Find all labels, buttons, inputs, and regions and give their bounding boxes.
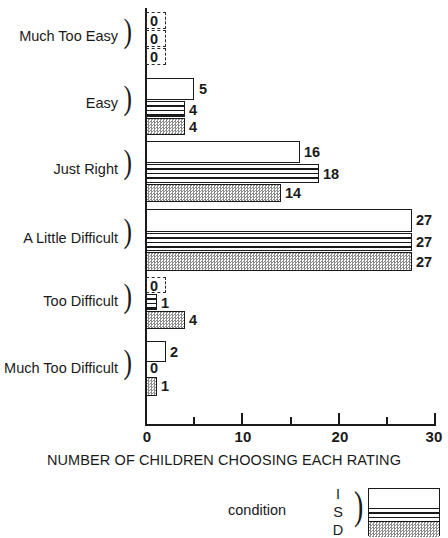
group-brace-icon: )	[123, 345, 131, 379]
bar-value-just-right-S: 18	[323, 166, 339, 182]
bar-group-much-too-easy: Much Too Easy ) 0 0 0	[0, 8, 448, 70]
legend-swatch-I[interactable]	[369, 489, 439, 508]
bar-a-little-difficult-D[interactable]	[146, 252, 412, 271]
legend-key-D: D	[331, 522, 345, 538]
bar-just-right-I[interactable]	[146, 141, 300, 163]
legend-title: condition	[228, 502, 286, 518]
bar-value-too-difficult-I: 0	[150, 278, 158, 294]
legend: condition I S D )	[0, 488, 448, 536]
bar-value-just-right-D: 14	[285, 185, 301, 201]
bar-group-easy: Easy ) 5 4 4	[0, 78, 448, 128]
bar-a-little-difficult-I[interactable]	[146, 209, 412, 232]
bar-easy-S[interactable]	[146, 101, 185, 117]
bar-too-difficult-S[interactable]	[146, 294, 157, 310]
x-axis-title: NUMBER OF CHILDREN CHOOSING EACH RATING	[0, 452, 448, 468]
bar-value-much-too-easy-I: 0	[150, 13, 158, 29]
bar-just-right-D[interactable]	[146, 184, 281, 202]
bar-value-a-little-difficult-S: 27	[416, 234, 432, 250]
x-tick-20	[338, 413, 340, 424]
x-tick-label-30: 30	[425, 428, 442, 445]
bar-value-much-too-difficult-D: 1	[161, 378, 169, 394]
bar-a-little-difficult-S[interactable]	[146, 233, 412, 251]
bar-value-too-difficult-D: 4	[189, 312, 197, 328]
bar-group-much-too-difficult: Much Too Difficult ) 2 0 1	[0, 341, 448, 397]
group-brace-icon: )	[123, 14, 131, 48]
category-label-too-difficult: Too Difficult	[0, 293, 118, 309]
x-tick-label-10: 10	[234, 428, 251, 445]
x-tick-10	[241, 413, 243, 424]
bar-value-a-little-difficult-I: 27	[416, 212, 432, 228]
legend-key-S: S	[331, 504, 345, 520]
bar-value-a-little-difficult-D: 27	[416, 254, 432, 270]
x-tick-label-0: 0	[143, 428, 152, 445]
category-label-just-right: Just Right	[0, 161, 118, 177]
group-brace-icon: )	[123, 145, 131, 179]
bar-value-easy-S: 4	[189, 102, 197, 118]
bar-much-too-difficult-I[interactable]	[146, 341, 166, 362]
x-tick-0	[145, 413, 147, 424]
bar-easy-D[interactable]	[146, 118, 185, 135]
bar-too-difficult-D[interactable]	[146, 311, 185, 329]
category-label-much-too-difficult: Much Too Difficult	[0, 360, 118, 376]
bar-value-too-difficult-S: 1	[161, 295, 169, 311]
legend-key-I: I	[331, 486, 345, 502]
bar-just-right-S[interactable]	[146, 164, 319, 183]
bar-group-just-right: Just Right ) 16 18 14	[0, 141, 448, 197]
category-label-easy: Easy	[0, 95, 118, 111]
x-tick-label-20: 20	[331, 428, 348, 445]
x-tick-minor-5	[193, 417, 195, 424]
legend-swatch-S[interactable]	[369, 508, 439, 522]
bar-value-much-too-easy-D: 0	[150, 49, 158, 65]
legend-swatch-D[interactable]	[369, 522, 439, 537]
legend-swatch-box	[368, 488, 440, 536]
category-label-much-too-easy: Much Too Easy	[0, 28, 118, 44]
x-axis-line	[145, 424, 436, 426]
bar-value-much-too-difficult-I: 2	[170, 344, 178, 360]
x-tick-minor-15	[290, 417, 292, 424]
group-brace-icon: )	[123, 214, 131, 248]
category-label-a-little-difficult: A Little Difficult	[0, 230, 118, 246]
x-tick-minor-25	[386, 417, 388, 424]
group-brace-icon: )	[123, 279, 131, 313]
bar-value-easy-D: 4	[189, 119, 197, 135]
legend-brace-icon: )	[354, 486, 363, 526]
bar-value-easy-I: 5	[199, 81, 207, 97]
bar-value-just-right-I: 16	[304, 144, 320, 160]
x-tick-30	[434, 413, 436, 424]
bar-value-much-too-difficult-S: 0	[150, 360, 158, 376]
bar-group-a-little-difficult: A Little Difficult ) 27 27 27	[0, 209, 448, 269]
bar-easy-I[interactable]	[146, 78, 194, 100]
bar-much-too-difficult-D[interactable]	[146, 377, 157, 396]
bar-group-too-difficult: Too Difficult ) 0 1 4	[0, 277, 448, 329]
bar-value-much-too-easy-S: 0	[150, 31, 158, 47]
group-brace-icon: )	[123, 81, 131, 115]
